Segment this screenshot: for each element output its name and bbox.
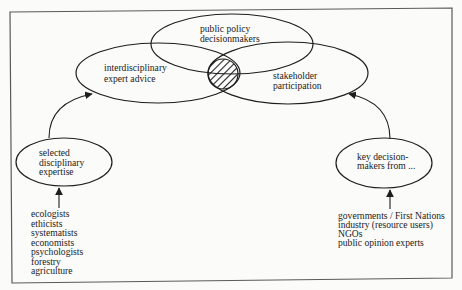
list-disciplines: ecologists ethicists systematists econom… xyxy=(31,208,86,276)
label-key-decision-makers: key decision- makers from ... xyxy=(357,151,415,171)
label-public-policy: public policy decisionmakers xyxy=(200,23,260,44)
list-stakeholders: governments / First Nations industry (re… xyxy=(338,210,447,248)
diagram-canvas: public policy decisionmakers interdiscip… xyxy=(0,0,462,290)
arrow-decisionmakers-to-participation xyxy=(349,94,390,139)
label-stakeholder-participation: stakeholder participation xyxy=(273,70,322,91)
arrow-expertise-to-advice xyxy=(49,94,92,138)
label-disciplinary-expertise: selected disciplinary expertise xyxy=(39,147,87,177)
label-expert-advice: interdisciplinary expert advice xyxy=(104,62,169,84)
diagram-svg: public policy decisionmakers interdiscip… xyxy=(0,0,462,290)
